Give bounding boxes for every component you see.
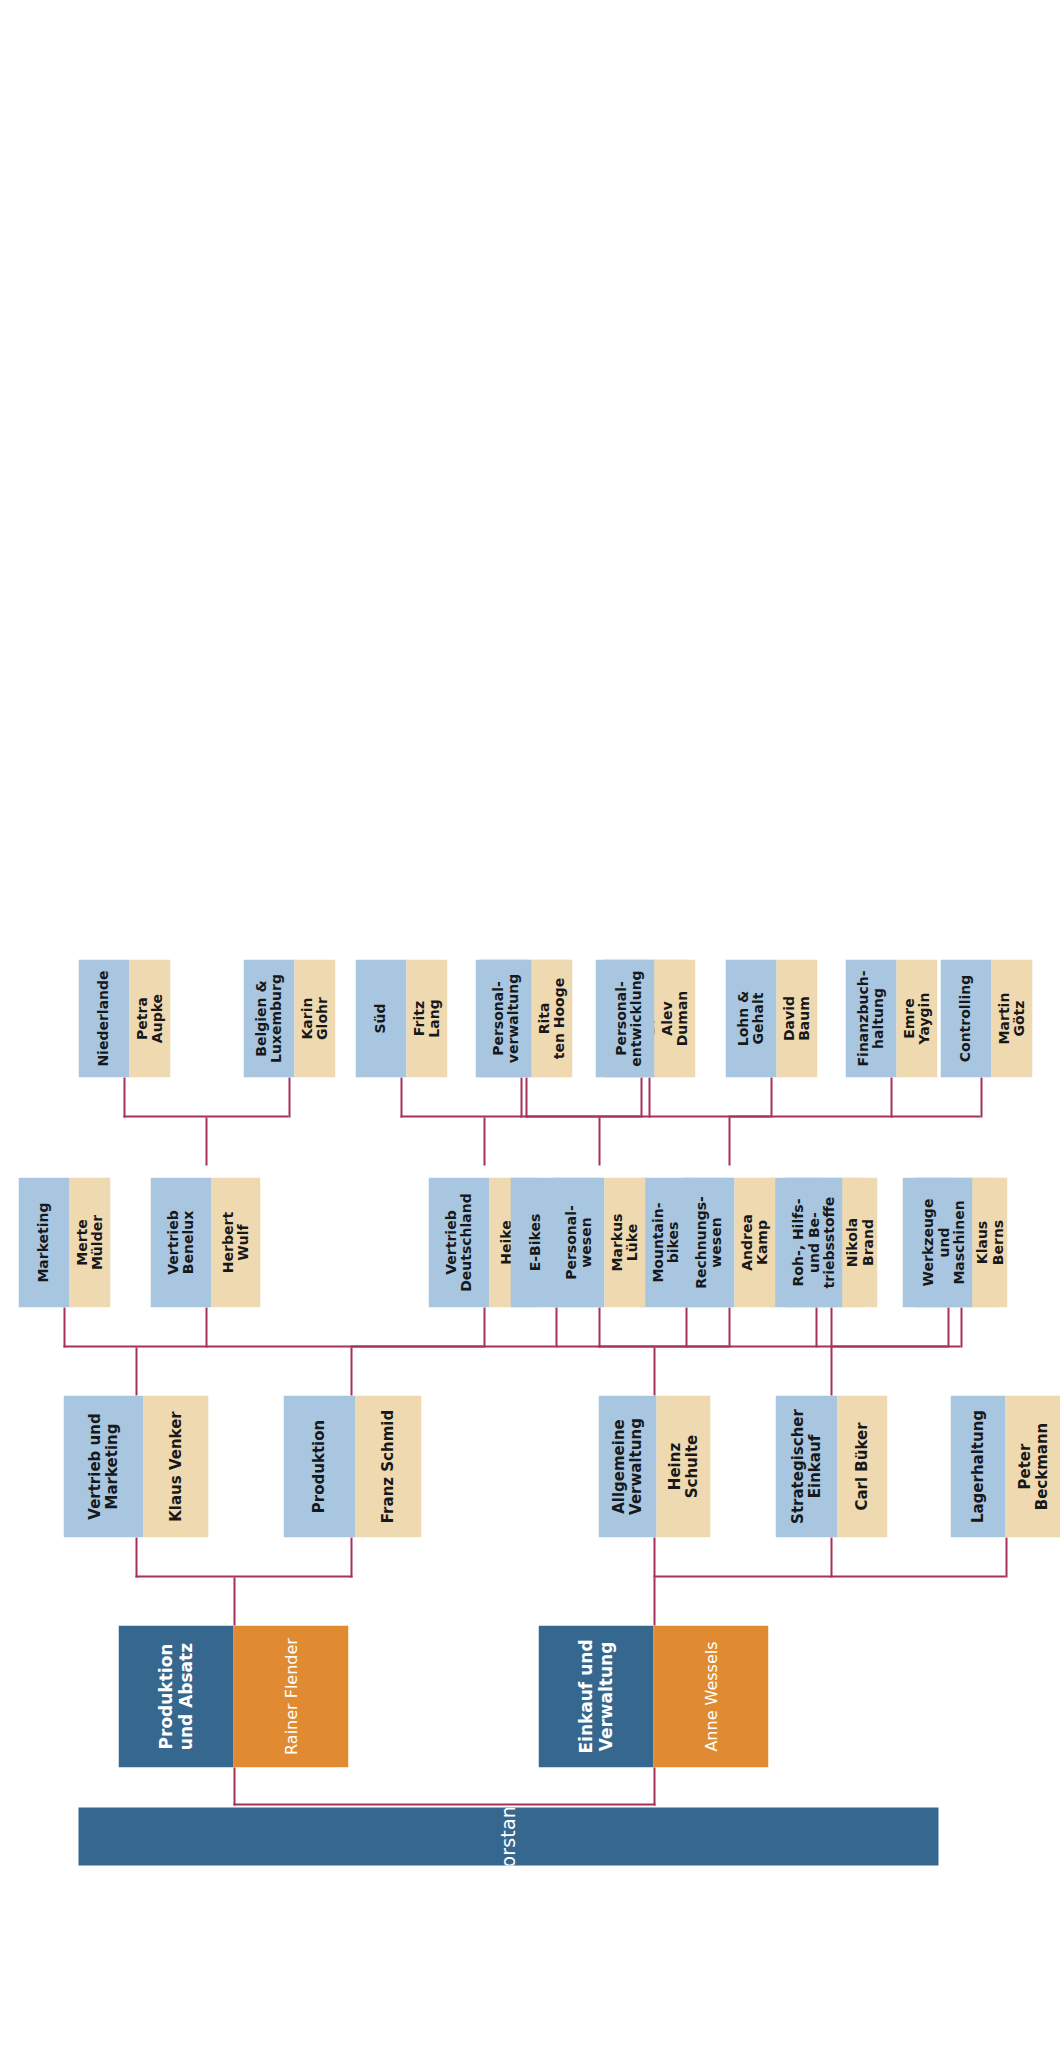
connector-personalwesen-to-lohn — [770, 1077, 772, 1117]
connector-vertriebmkt-to-benelux — [205, 1307, 207, 1347]
connector-prodabsatz-spine — [135, 1575, 352, 1577]
node-einkauf-und-verwaltung-person: Anne Wessels — [653, 1625, 768, 1767]
node-controlling-unit: Controlling — [940, 959, 991, 1077]
connector-benelux-to-belgien — [288, 1077, 290, 1117]
node-personalwesen-person: Markus Lüke — [604, 1177, 645, 1307]
connector-vertriebmkt-out — [135, 1347, 137, 1395]
connector-benelux-to-niederlande — [123, 1077, 125, 1117]
node-roh-hilfs-betriebsstoffe-person: Nikola Brand — [842, 1177, 877, 1307]
node-vorstand-unit: Vorstand — [78, 1807, 938, 1865]
connector-strateinkauf-spine — [830, 1345, 960, 1347]
node-personalwesen-unit: Personal- wesen — [553, 1177, 604, 1307]
node-controlling-person: Martin Götz — [991, 959, 1032, 1077]
node-marketing-person: Merte Mülder — [69, 1177, 110, 1307]
connector-deutschland-to-west — [520, 1077, 522, 1117]
connector-einkauf-to-lagerhaltung — [1005, 1537, 1007, 1577]
node-roh-hilfs-betriebsstoffe[interactable]: Roh-, Hilfs- und Be- triebsstoffe Nikola… — [785, 1177, 877, 1307]
node-vertrieb-und-marketing[interactable]: Vertrieb und Marketing Klaus Venker — [63, 1395, 208, 1537]
connector-prodabsatz-out — [233, 1577, 235, 1625]
node-allgemeine-verwaltung-unit: Allgemeine Verwaltung — [598, 1395, 656, 1537]
connector-strateinkauf-out — [830, 1347, 832, 1395]
node-belgien-luxemburg-person: Karin Glohr — [294, 959, 335, 1077]
connector-deutschland-out — [483, 1117, 485, 1165]
node-produktion-und-absatz-person: Rainer Flender — [233, 1625, 348, 1767]
node-finanzbuchhaltung-unit: Finanzbuch- haltung — [845, 959, 896, 1077]
connector-personalwesen-out — [598, 1117, 600, 1165]
node-produktion[interactable]: Produktion Franz Schmid — [283, 1395, 421, 1537]
node-einkauf-und-verwaltung[interactable]: Einkauf und Verwaltung Anne Wessels — [538, 1625, 768, 1767]
node-personalverwaltung[interactable]: Personal- verwaltung Rita ten Hooge — [480, 959, 572, 1077]
node-vertrieb-und-marketing-unit: Vertrieb und Marketing — [63, 1395, 143, 1537]
node-produktion-unit: Produktion — [283, 1395, 355, 1537]
node-allgemeine-verwaltung-person: Heinz Schulte — [656, 1395, 710, 1537]
connector-root-to-prodabsatz — [233, 1767, 235, 1805]
node-allgemeine-verwaltung[interactable]: Allgemeine Verwaltung Heinz Schulte — [598, 1395, 710, 1537]
node-vorstand[interactable]: Vorstand — [78, 1807, 938, 1865]
node-personalentwicklung-person: Alev Duman — [654, 959, 695, 1077]
connector-einkauf-to-stratEinkauf — [830, 1537, 832, 1577]
node-belgien-luxemburg[interactable]: Belgien & Luxemburg Karin Glohr — [243, 959, 335, 1077]
connector-rechnungswesen-to-controlling — [980, 1077, 982, 1117]
node-werkzeuge-und-maschinen-person: Klaus Berns — [972, 1177, 1007, 1307]
node-produktion-und-absatz[interactable]: Produktion und Absatz Rainer Flender — [118, 1625, 348, 1767]
node-einkauf-und-verwaltung-unit: Einkauf und Verwaltung — [538, 1625, 653, 1767]
connector-allgverw-out — [653, 1347, 655, 1395]
node-niederlande-person: Petra Aupke — [129, 959, 170, 1077]
connector-rechnungswesen-out — [728, 1117, 730, 1165]
node-vertrieb-benelux-person: Herbert Wulf — [211, 1177, 261, 1307]
connector-produktion-out — [350, 1347, 352, 1395]
connector-vertriebmkt-to-marketing — [63, 1307, 65, 1347]
node-rechnungswesen-person: Andrea Kamp — [734, 1177, 775, 1307]
node-werkzeuge-und-maschinen[interactable]: Werkzeuge und Maschinen Klaus Berns — [915, 1177, 1007, 1307]
node-vertrieb-deutschland-unit: Vertrieb Deutschland — [428, 1177, 489, 1307]
node-personalentwicklung-unit: Personal- entwicklung — [603, 959, 654, 1077]
connector-deutschland-to-sued — [400, 1077, 402, 1117]
connector-allgverw-spine — [598, 1345, 728, 1347]
node-marketing-unit: Marketing — [18, 1177, 69, 1307]
connector-einkauf-out — [653, 1577, 655, 1625]
node-personalverwaltung-person: Rita ten Hooge — [531, 959, 572, 1077]
connector-rechnungswesen-spine — [728, 1115, 980, 1117]
node-vertrieb-benelux[interactable]: Vertrieb Benelux Herbert Wulf — [150, 1177, 260, 1307]
node-lohn-und-gehalt-unit: Lohn & Gehalt — [725, 959, 776, 1077]
node-werkzeuge-und-maschinen-unit: Werkzeuge und Maschinen — [915, 1177, 972, 1307]
connector-personalwesen-to-personalverw — [525, 1077, 527, 1117]
node-niederlande-unit: Niederlande — [78, 959, 129, 1077]
connector-benelux-out — [205, 1117, 207, 1165]
node-finanzbuchhaltung-person: Emre Yaygin — [896, 959, 937, 1077]
connector-vertriebmkt-to-deutschland — [483, 1307, 485, 1347]
connector-prodabsatz-to-vertriebmkt — [135, 1537, 137, 1577]
node-marketing[interactable]: Marketing Merte Mülder — [18, 1177, 110, 1307]
node-lohn-und-gehalt-person: David Baum — [776, 959, 817, 1077]
connector-einkauf-spine — [653, 1575, 1005, 1577]
node-finanzbuchhaltung[interactable]: Finanzbuch- haltung Emre Yaygin — [845, 959, 937, 1077]
node-sued-person: Fritz Lang — [406, 959, 447, 1077]
connector-produktion-to-mountainbikes — [685, 1307, 687, 1347]
connector-root-spine — [233, 1803, 655, 1805]
node-lagerhaltung-person: Peter Beckmann — [1005, 1395, 1060, 1537]
node-personalentwicklung[interactable]: Personal- entwicklung Alev Duman — [603, 959, 695, 1077]
connector-produktion-spine-up — [350, 1345, 555, 1347]
node-niederlande[interactable]: Niederlande Petra Aupke — [78, 959, 170, 1077]
node-rechnungswesen[interactable]: Rechnungs- wesen Andrea Kamp — [683, 1177, 775, 1307]
node-strategischer-einkauf[interactable]: Strategischer Einkauf Carl Büker — [775, 1395, 887, 1537]
connector-root-to-einkauf — [653, 1767, 655, 1805]
node-lagerhaltung[interactable]: Lagerhaltung Peter Beckmann — [950, 1395, 1060, 1537]
connector-allgverw-to-personalwesen — [598, 1307, 600, 1347]
node-strategischer-einkauf-person: Carl Büker — [837, 1395, 887, 1537]
node-rechnungswesen-unit: Rechnungs- wesen — [683, 1177, 734, 1307]
node-sued[interactable]: Süd Fritz Lang — [355, 959, 447, 1077]
node-personalwesen[interactable]: Personal- wesen Markus Lüke — [553, 1177, 645, 1307]
node-personalverwaltung-unit: Personal- verwaltung — [480, 959, 531, 1077]
node-lohn-und-gehalt[interactable]: Lohn & Gehalt David Baum — [725, 959, 817, 1077]
node-vertrieb-benelux-unit: Vertrieb Benelux — [150, 1177, 211, 1307]
connector-einkauf-to-allgverwaltung — [653, 1537, 655, 1577]
connector-strateinkauf-to-roh — [830, 1307, 832, 1347]
node-strategischer-einkauf-unit: Strategischer Einkauf — [775, 1395, 837, 1537]
node-produktion-person: Franz Schmid — [355, 1395, 421, 1537]
node-controlling[interactable]: Controlling Martin Götz — [940, 959, 1032, 1077]
node-vertrieb-und-marketing-person: Klaus Venker — [143, 1395, 208, 1537]
node-sued-unit: Süd — [355, 959, 406, 1077]
connector-benelux-spine — [123, 1115, 288, 1117]
